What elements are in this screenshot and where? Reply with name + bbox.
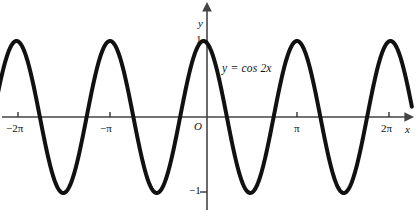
x-tick-label-neg-2pi: −2π xyxy=(6,123,23,134)
y-axis-label: y xyxy=(198,18,203,29)
x-tick-label-neg-pi: −π xyxy=(100,123,112,134)
cosine-graph-figure: y 1 −1 O −2π −π π 2π x y = cos 2x xyxy=(0,0,418,218)
x-tick-label-pi: π xyxy=(294,123,300,134)
x-tick-label-2pi: 2π xyxy=(381,123,392,134)
equation-annotation: y = cos 2x xyxy=(222,63,272,75)
y-value-one-label: 1 xyxy=(196,34,202,45)
y-value-negative-one-label: −1 xyxy=(189,185,201,196)
plot-canvas xyxy=(0,0,418,218)
x-axis-label: x xyxy=(405,124,410,135)
origin-label: O xyxy=(194,121,202,132)
